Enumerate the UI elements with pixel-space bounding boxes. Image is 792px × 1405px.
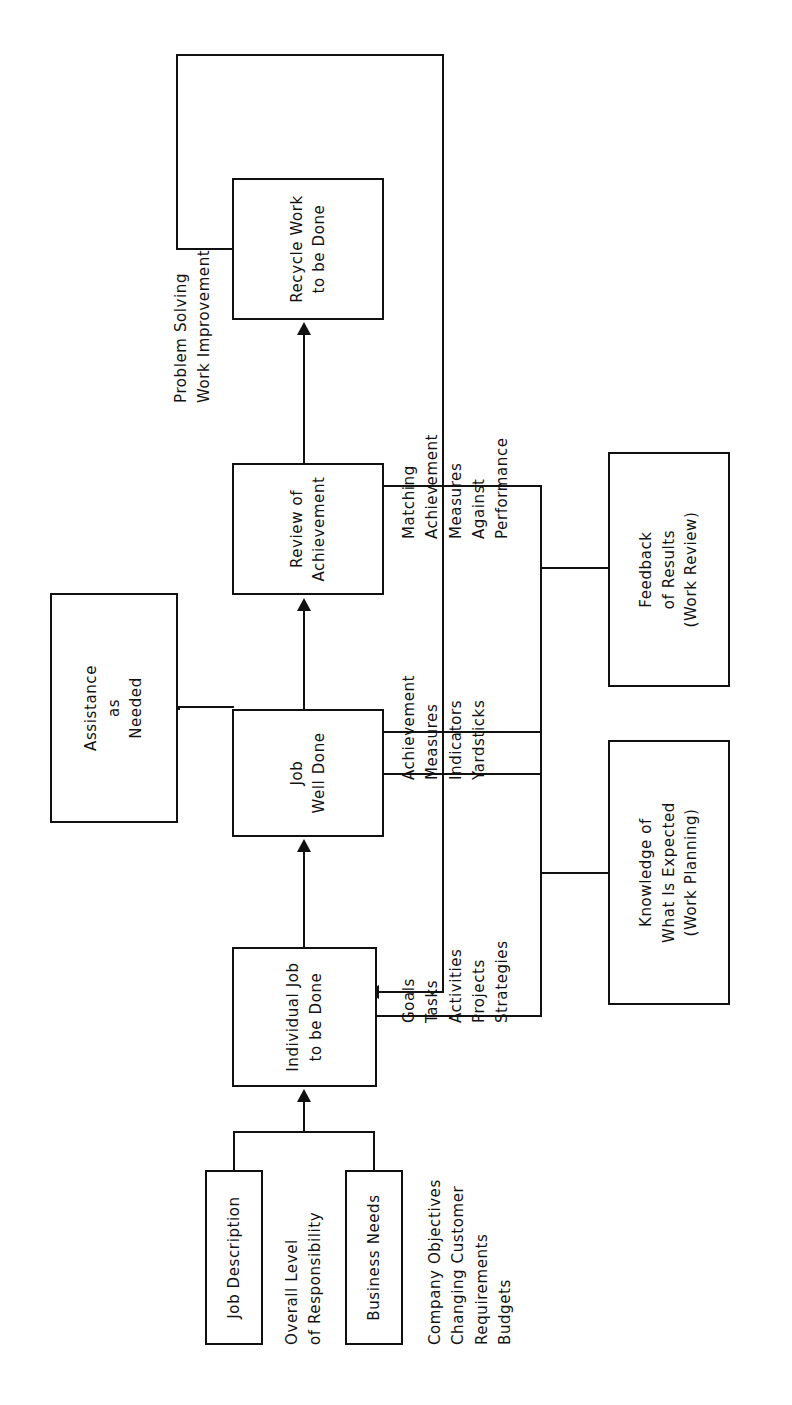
node-knowledge-of-what-is-expected-label: Knowledge of What Is Expected (Work Plan… — [635, 802, 703, 943]
arrow-job-well-done-to-review — [297, 598, 311, 611]
node-knowledge-of-what-is-expected[interactable]: Knowledge of What Is Expected (Work Plan… — [608, 740, 730, 1005]
node-review-of-achievement[interactable]: Review of Achievement — [232, 463, 384, 595]
arrow-review-to-recycle — [297, 322, 311, 335]
node-business-needs[interactable]: Business Needs — [345, 1170, 403, 1345]
connector-individual-job-to-job-well-done — [303, 852, 305, 947]
node-feedback-of-results-label: Feedback of Results (Work Review) — [635, 512, 703, 628]
node-job-description[interactable]: Job Description — [205, 1170, 263, 1345]
node-assistance-as-needed-label: Assistance as Needed — [80, 665, 148, 751]
node-job-description-label: Job Description — [223, 1196, 246, 1318]
connector-job-well-done-to-review — [303, 611, 305, 709]
node-job-well-done[interactable]: Job Well Done — [232, 709, 384, 837]
connector-job-description-lead — [233, 1131, 235, 1171]
node-recycle-work-to-be-done-label: Recycle Work to be Done — [286, 195, 331, 303]
connector-assistance-stem — [178, 706, 234, 708]
node-individual-job-to-be-done[interactable]: Individual Job to be Done — [232, 947, 377, 1087]
page-rotation-wrapper: Job Description Business Needs Individua… — [0, 0, 792, 1405]
annotation-job-elements: Goals Tasks Activities Projects Strategi… — [398, 823, 514, 1023]
connector-knowledge-stem — [540, 872, 610, 874]
connector-review-to-recycle — [303, 335, 305, 463]
annotation-overall-level-of-responsibility: Overall Level of Responsibility — [281, 1115, 328, 1345]
connector-feedback-stem — [540, 567, 610, 569]
connector-business-needs-lead — [373, 1131, 375, 1171]
node-assistance-as-needed[interactable]: Assistance as Needed — [50, 593, 178, 823]
diagram-canvas: Job Description Business Needs Individua… — [0, 0, 792, 1405]
connector-recycle-loop-right — [176, 54, 444, 56]
node-job-well-done-label: Job Well Done — [286, 732, 331, 813]
annotation-recycle-outputs: Problem Solving Work Improvement — [170, 163, 217, 403]
connector-assistance-lead — [178, 708, 180, 710]
node-review-of-achievement-label: Review of Achievement — [286, 476, 331, 581]
node-recycle-work-to-be-done[interactable]: Recycle Work to be Done — [232, 178, 384, 320]
arrow-individual-job-to-job-well-done — [297, 839, 311, 852]
node-business-needs-label: Business Needs — [363, 1194, 386, 1320]
connector-feedback-bracket-top — [540, 485, 542, 775]
annotation-achievement-measures: Achievement Measures Indicators Yardstic… — [398, 580, 491, 780]
annotation-matching-achievement-measures: Matching Achievement Measures Against Pe… — [398, 329, 514, 539]
node-individual-job-to-be-done-label: Individual Job to be Done — [282, 962, 327, 1071]
arrow-inputs-to-individual-job — [297, 1089, 311, 1102]
node-feedback-of-results[interactable]: Feedback of Results (Work Review) — [608, 452, 730, 687]
annotation-business-inputs: Company Objectives Changing Customer Req… — [424, 1095, 517, 1345]
